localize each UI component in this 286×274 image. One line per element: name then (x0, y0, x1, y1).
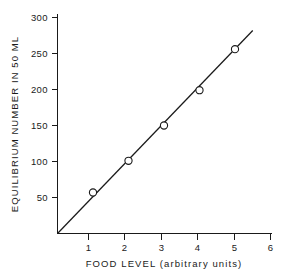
x-tick-label: 3 (159, 242, 165, 253)
x-tick-labels: 1 2 3 4 5 6 (86, 242, 274, 253)
x-tick-label: 4 (195, 242, 201, 253)
y-axis-title: EQUILIBRIUM NUMBER IN 50 ML (9, 36, 20, 212)
data-point (89, 189, 96, 196)
fit-line (58, 30, 253, 233)
y-tick-label: 150 (31, 120, 48, 131)
y-tick-label: 200 (31, 84, 48, 95)
x-tick-label: 6 (268, 242, 274, 253)
chart-figure: 300 250 200 150 100 50 1 2 3 4 5 6 FOOD … (0, 0, 286, 274)
y-tick-label: 50 (37, 192, 48, 203)
x-axis-title: FOOD LEVEL (arbitrary units) (86, 258, 243, 269)
data-point (160, 122, 167, 129)
data-point (125, 157, 132, 164)
y-tick-label: 250 (31, 48, 48, 59)
y-axis-ticks (52, 18, 58, 198)
x-axis-ticks (89, 234, 271, 240)
x-tick-label: 2 (122, 242, 128, 253)
data-point (231, 46, 238, 53)
y-tick-labels: 300 250 200 150 100 50 (31, 12, 48, 203)
x-tick-label: 1 (86, 242, 92, 253)
data-point (196, 87, 203, 94)
x-tick-label: 5 (232, 242, 238, 253)
scatter-plot: 300 250 200 150 100 50 1 2 3 4 5 6 FOOD … (0, 0, 286, 274)
y-tick-label: 300 (31, 12, 48, 23)
y-tick-label: 100 (31, 156, 48, 167)
